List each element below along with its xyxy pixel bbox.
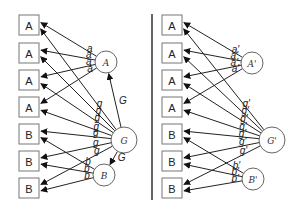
box-label: B <box>25 129 32 141</box>
loading-label: b' <box>231 173 240 184</box>
box-label: A <box>168 48 176 60</box>
circle-label: A <box>102 58 110 68</box>
loading-label: b <box>84 170 90 181</box>
loading-label: g' <box>240 145 249 156</box>
circle-label: B <box>100 171 108 181</box>
edge-G-to-box <box>41 84 113 133</box>
edge-G-to-box <box>41 143 111 158</box>
box-label: A <box>25 20 33 32</box>
box-label: B <box>25 156 32 168</box>
circle-label: A' <box>247 59 257 69</box>
edge-G-to-box <box>41 131 111 139</box>
box-label: A <box>168 75 176 87</box>
box-label: A <box>25 75 33 87</box>
box-label: A <box>25 102 33 114</box>
loading-label: a' <box>232 63 241 74</box>
path-label: G <box>118 152 126 163</box>
circle-label: B' <box>247 175 257 185</box>
edge-G-to-B <box>110 151 118 164</box>
circle-label: G <box>120 136 127 146</box>
circle-label: G' <box>267 136 277 146</box>
factor-diagram: AAAABBBAGBAAAABBBA'G'B' aaaagggggggbbbGG… <box>0 0 300 211</box>
box-label: B <box>25 183 32 195</box>
box-label: B <box>168 183 175 195</box>
path-label: G <box>119 95 127 106</box>
box-label: B <box>168 129 175 141</box>
box-label: B <box>168 156 175 168</box>
box-label: A <box>168 20 176 32</box>
box-label: A <box>168 102 176 114</box>
box-label: A <box>25 48 33 60</box>
loading-label: g <box>94 145 100 156</box>
loading-label: a <box>87 63 93 74</box>
